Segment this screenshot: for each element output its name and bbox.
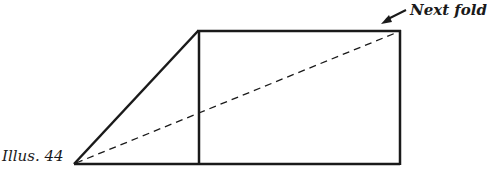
next-fold-dashed-line (76, 32, 398, 163)
arrow-icon (381, 10, 406, 24)
diagonal-edge (74, 31, 198, 164)
illustration-caption: Illus. 44 (2, 147, 64, 165)
next-fold-label: Next fold (410, 1, 487, 19)
